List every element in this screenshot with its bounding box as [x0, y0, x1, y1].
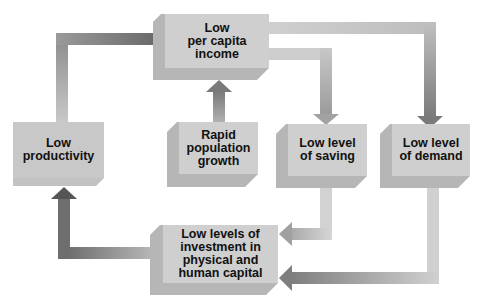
arrow-productivity-to-income: [56, 27, 167, 123]
node-label-line: income: [187, 48, 246, 61]
node-label-line: productivity: [23, 150, 95, 163]
arrow-saving-to-investment: [279, 188, 332, 246]
vicious-cycle-diagram: Low per capita income Low productivity R…: [0, 0, 486, 302]
node-label-line: Low: [187, 22, 246, 35]
node-label-line: per capita: [187, 35, 246, 48]
node-low-level-of-saving: Low level of saving: [276, 124, 367, 188]
node-label-line: population: [187, 142, 251, 155]
arrow-investment-to-productivity: [51, 187, 154, 259]
node-rapid-population-growth: Rapid population growth: [167, 122, 258, 187]
node-label-line: Rapid: [187, 129, 251, 142]
node-low-levels-of-investment: Low levels of investment in physical and…: [150, 225, 278, 295]
node-low-per-capita-income: Low per capita income: [153, 14, 269, 80]
arrow-income-to-saving: [262, 48, 339, 125]
node-label-line: human capital: [178, 267, 262, 280]
arrow-income-to-demand: [262, 22, 443, 128]
node-label-line: growth: [187, 155, 251, 168]
node-label-line: of saving: [299, 150, 355, 163]
node-low-productivity: Low productivity: [13, 122, 104, 186]
node-label-line: of demand: [399, 150, 462, 163]
node-low-level-of-demand: Low level of demand: [380, 124, 470, 188]
